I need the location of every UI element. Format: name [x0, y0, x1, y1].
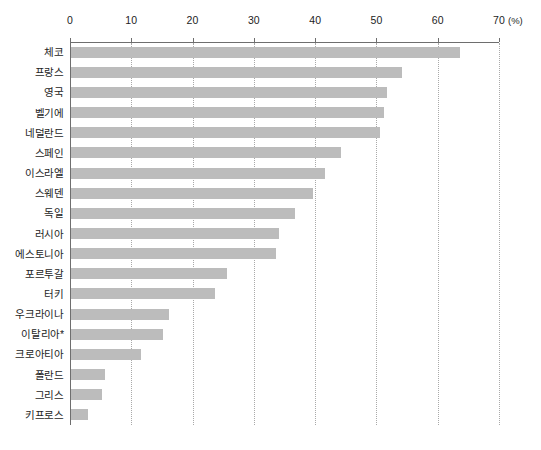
bar-row	[70, 409, 499, 420]
category-label: 폴란드	[0, 369, 64, 381]
bar-row	[70, 147, 499, 158]
bar-row	[70, 329, 499, 340]
category-label: 터키	[0, 288, 64, 300]
x-axis-unit-label: (%)	[508, 14, 523, 27]
bar-chart: 010203040506070(%) 체코프랑스영국벨기에네덜란드스페인이스라엘…	[0, 0, 541, 450]
bar	[71, 389, 102, 400]
bar-row	[70, 67, 499, 78]
category-label: 체코	[0, 46, 64, 58]
bar	[71, 67, 402, 78]
bar	[71, 87, 387, 98]
category-label: 프랑스	[0, 66, 64, 78]
bar	[71, 107, 384, 118]
category-axis-labels: 체코프랑스영국벨기에네덜란드스페인이스라엘스웨덴독일러시아에스토니아포르투갈터키…	[0, 42, 64, 425]
bar-row	[70, 168, 499, 179]
category-label: 키프로스	[0, 409, 64, 421]
x-tick-label-30: 30	[248, 14, 260, 27]
category-label: 스웨덴	[0, 187, 64, 199]
bar-row	[70, 127, 499, 138]
bar-row	[70, 47, 499, 58]
category-label: 우크라이나	[0, 308, 64, 320]
category-label: 포르투갈	[0, 268, 64, 280]
category-label: 벨기에	[0, 107, 64, 119]
x-tick-label-50: 50	[370, 14, 382, 27]
x-tick-label-0: 0	[67, 14, 73, 27]
bar	[71, 349, 141, 360]
x-tick-label-10: 10	[125, 14, 137, 27]
category-label: 크로아티아	[0, 348, 64, 360]
category-label: 영국	[0, 86, 64, 98]
bar-row	[70, 389, 499, 400]
bar-row	[70, 228, 499, 239]
category-label: 에스토니아	[0, 248, 64, 260]
bar-rows	[70, 42, 499, 425]
category-label: 그리스	[0, 389, 64, 401]
bar	[71, 188, 313, 199]
category-label: 독일	[0, 207, 64, 219]
x-tick-label-70: 70	[493, 14, 505, 27]
bar	[71, 268, 227, 279]
bar	[71, 127, 380, 138]
bar	[71, 168, 325, 179]
x-axis-tick-labels: 010203040506070(%)	[0, 14, 541, 36]
category-label: 스페인	[0, 147, 64, 159]
x-tick-label-20: 20	[187, 14, 199, 27]
bar	[71, 248, 276, 259]
bar	[71, 228, 279, 239]
tick-mark-70	[499, 38, 500, 42]
bar	[71, 288, 215, 299]
bar	[71, 409, 88, 420]
bar-row	[70, 188, 499, 199]
bar	[71, 369, 105, 380]
bar-row	[70, 369, 499, 380]
bar	[71, 47, 460, 58]
x-tick-label-40: 40	[309, 14, 321, 27]
bar	[71, 147, 341, 158]
category-label: 이스라엘	[0, 167, 64, 179]
category-label: 네덜란드	[0, 127, 64, 139]
bar	[71, 208, 295, 219]
bar-row	[70, 107, 499, 118]
bar-row	[70, 248, 499, 259]
bar	[71, 329, 163, 340]
category-label: 이탈리아*	[0, 328, 64, 340]
bar-row	[70, 288, 499, 299]
x-tick-label-60: 60	[432, 14, 444, 27]
bar-row	[70, 349, 499, 360]
plot-area	[70, 42, 499, 425]
gridline-70	[499, 43, 500, 425]
bar-row	[70, 87, 499, 98]
bar	[71, 309, 169, 320]
bar-row	[70, 208, 499, 219]
bar-row	[70, 309, 499, 320]
bar-row	[70, 268, 499, 279]
category-label: 러시아	[0, 228, 64, 240]
